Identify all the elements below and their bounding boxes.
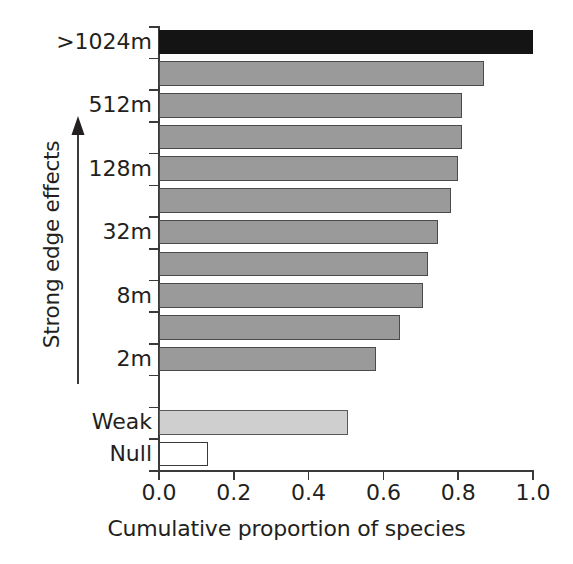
x-axis-line (158, 470, 534, 472)
x-axis-tick-label: 0.8 (428, 482, 488, 504)
x-axis-tick-labels: 0.00.20.40.60.81.0 (0, 482, 573, 512)
y-axis-tick (149, 121, 159, 123)
bar (159, 61, 484, 86)
y-axis-tick (149, 26, 159, 28)
bar (159, 283, 423, 308)
bar (159, 125, 462, 150)
bar-chart: Strong edge effects >1024m512m128m32m8m2… (0, 0, 573, 564)
bar (159, 442, 208, 467)
y-axis-tick (149, 280, 159, 282)
x-axis-tick (308, 470, 310, 480)
bar (159, 410, 348, 435)
x-axis-tick-label: 1.0 (503, 482, 563, 504)
y-axis-tick (149, 438, 159, 440)
y-axis-tick (149, 153, 159, 155)
x-axis-tick-label: 0.2 (204, 482, 264, 504)
x-axis-tick (158, 470, 160, 480)
y-axis-tick (149, 248, 159, 250)
y-axis-tick (149, 216, 159, 218)
y-axis-tick (149, 311, 159, 313)
y-axis-tick-label: >1024m (56, 31, 152, 53)
x-axis-tick (233, 470, 235, 480)
bar (159, 30, 533, 55)
bar (159, 220, 438, 245)
y-axis-tick (149, 343, 159, 345)
x-axis-tick-label: 0.0 (129, 482, 189, 504)
plot-area (159, 26, 533, 470)
x-axis-tick-label: 0.4 (279, 482, 339, 504)
y-axis-tick-label: 512m (89, 94, 152, 116)
y-axis-tick (149, 375, 159, 377)
y-axis-tick-label: Null (109, 443, 152, 465)
y-axis-tick (149, 89, 159, 91)
y-axis-tick-label: 128m (89, 158, 152, 180)
y-axis-tick (149, 407, 159, 409)
y-axis-tick (149, 58, 159, 60)
bar (159, 188, 451, 213)
x-axis-tick (532, 470, 534, 480)
y-axis-tick-label: Weak (92, 411, 152, 433)
y-axis-tick-label: 32m (103, 221, 152, 243)
bar (159, 156, 458, 181)
y-axis-tick-labels: >1024m512m128m32m8m2mWeakNull (0, 0, 152, 480)
x-axis-tick (457, 470, 459, 480)
y-axis-tick (149, 185, 159, 187)
bar (159, 252, 428, 277)
bar (159, 347, 376, 372)
y-axis-tick-label: 8m (117, 285, 152, 307)
x-axis-title: Cumulative proportion of species (0, 516, 573, 541)
y-axis-tick-label: 2m (117, 348, 152, 370)
bar (159, 93, 462, 118)
bar (159, 315, 400, 340)
x-axis-tick (383, 470, 385, 480)
x-axis-tick-label: 0.6 (353, 482, 413, 504)
